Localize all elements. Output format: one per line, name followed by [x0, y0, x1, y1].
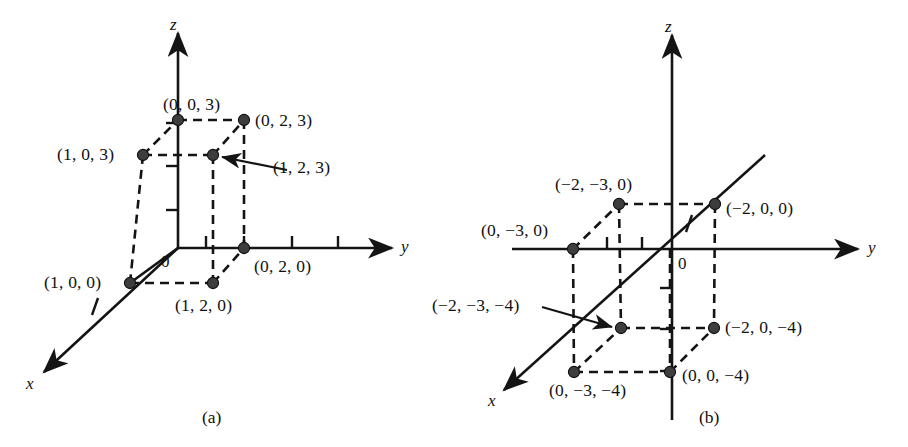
edge-a-top-right	[213, 120, 244, 155]
vertex-n2-0-0	[709, 198, 720, 209]
origin-label-b: 0	[678, 255, 687, 272]
vertex-0-0-3	[172, 114, 183, 125]
axis-label-x-a: x	[26, 375, 34, 392]
label-n2-n3-n4: (−2, −3, −4)	[432, 297, 519, 315]
vertex-1-0-0	[124, 277, 135, 288]
vertex-0-0-n4	[664, 366, 675, 377]
axis-label-x-b: x	[488, 392, 496, 409]
origin-label-a: 0	[161, 253, 170, 270]
tick-x-b-1	[686, 215, 692, 232]
label-0-0-3: (0, 0, 3)	[163, 96, 220, 114]
label-1-2-0: (1, 2, 0)	[175, 297, 232, 315]
label-1-2-3: (1, 2, 3)	[273, 159, 330, 177]
edge-b-bot-left	[574, 328, 621, 372]
vertex-n2-0-n4	[708, 322, 719, 333]
label-0-n3-0: (0, −3, 0)	[481, 222, 548, 240]
label-n2-0-n4: (−2, 0, −4)	[725, 319, 802, 337]
axis-x-a	[44, 248, 178, 372]
diagram-a	[0, 0, 454, 447]
axis-label-z-b: z	[665, 18, 672, 35]
edge-a-vert-left-front	[130, 155, 143, 283]
vertex-1-2-3	[207, 149, 218, 160]
axis-label-z-a: z	[170, 16, 177, 33]
figure-3d-coordinate-boxes: z y x 0 (0, 0, 3) (0, 2, 3) (1, 0, 3) (1…	[0, 0, 908, 447]
tick-x-a-1	[92, 298, 98, 315]
vertex-0-n3-n4	[568, 366, 579, 377]
axis-x-b	[504, 155, 765, 390]
axis-label-y-b: y	[868, 239, 876, 256]
vertex-1-0-3	[137, 149, 148, 160]
label-1-0-3: (1, 0, 3)	[57, 146, 114, 164]
panel-b: z y x 0 (−2, −3, 0) (−2, 0, 0) (0, −3, 0…	[454, 0, 908, 447]
label-0-0-n4: (0, 0, −4)	[682, 367, 749, 385]
edge-a-origin-to-x	[130, 248, 178, 283]
vertex-0-2-0	[238, 242, 249, 253]
label-0-2-0: (0, 2, 0)	[254, 258, 311, 276]
edge-b-vert-right	[714, 204, 715, 328]
vertex-0-2-3	[238, 114, 249, 125]
edge-b-vert-mid	[619, 204, 621, 328]
vertex-n2-n3-0	[613, 198, 624, 209]
axis-label-y-a: y	[401, 238, 409, 255]
vertex-0-n3-0	[567, 243, 578, 254]
caption-a: (a)	[202, 409, 221, 427]
label-n2-n3-0: (−2, −3, 0)	[555, 176, 632, 194]
label-0-n3-n4: (0, −3, −4)	[549, 382, 626, 400]
label-n2-0-0: (−2, 0, 0)	[726, 200, 793, 218]
vertex-1-2-0	[207, 277, 218, 288]
edge-b-top-left	[573, 204, 619, 249]
vertex-n2-n3-n4	[615, 322, 626, 333]
panel-a: z y x 0 (0, 0, 3) (0, 2, 3) (1, 0, 3) (1…	[0, 0, 454, 447]
label-1-0-0: (1, 0, 0)	[44, 274, 101, 292]
edge-a-top-left	[143, 120, 178, 155]
edge-a-bot-right	[213, 248, 244, 283]
edge-b-vert-left	[573, 249, 574, 372]
caption-b: (b)	[699, 409, 719, 427]
label-0-2-3: (0, 2, 3)	[255, 112, 312, 130]
